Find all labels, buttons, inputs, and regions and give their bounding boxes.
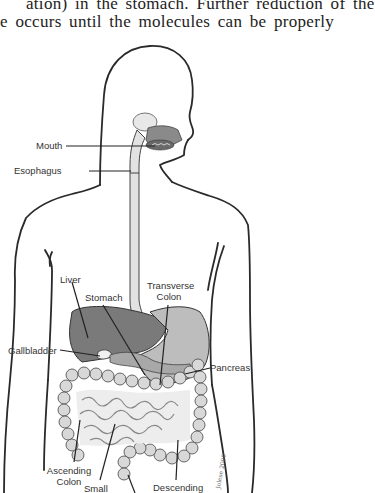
label-mouth: Mouth — [36, 140, 62, 151]
label-ascending-colon-line1: Ascending — [44, 465, 94, 476]
label-small-intestine: Small — [84, 483, 108, 493]
label-transverse-colon-line2: Colon — [147, 291, 191, 302]
label-descending-colon: Descending — [153, 482, 203, 493]
label-liver: Liver — [60, 274, 81, 285]
label-stomach: Stomach — [85, 292, 123, 303]
label-transverse-colon: Transverse Colon — [147, 280, 191, 302]
label-transverse-colon-line1: Transverse — [147, 280, 191, 291]
small-intestine — [76, 390, 190, 446]
label-gallbladder: Gallbladder — [8, 345, 57, 356]
label-esophagus: Esophagus — [14, 165, 62, 176]
label-pancreas: Pancreas — [210, 362, 250, 373]
